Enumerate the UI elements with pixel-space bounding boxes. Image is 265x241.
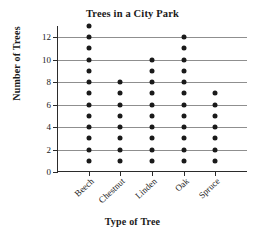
data-dot <box>86 147 91 152</box>
data-dot <box>181 80 186 85</box>
y-tick-mark <box>53 60 58 61</box>
data-dot <box>150 125 155 130</box>
data-dot <box>150 91 155 96</box>
y-tick-label: 12 <box>42 32 51 42</box>
data-dot <box>150 113 155 118</box>
data-dot <box>181 136 186 141</box>
data-dot <box>213 158 218 163</box>
y-tick-label: 6 <box>47 100 52 110</box>
y-tick-label: 4 <box>47 122 52 132</box>
y-tick-mark <box>53 105 58 106</box>
data-dot <box>86 80 91 85</box>
y-tick-mark <box>53 37 58 38</box>
data-dot <box>86 125 91 130</box>
data-dot <box>118 102 123 107</box>
data-dot <box>213 147 218 152</box>
data-dot <box>181 68 186 73</box>
data-dot <box>86 136 91 141</box>
data-dot <box>181 102 186 107</box>
data-dot <box>213 113 218 118</box>
data-dot <box>181 35 186 40</box>
data-dot <box>118 125 123 130</box>
y-tick-mark <box>53 172 58 173</box>
data-dot <box>86 158 91 163</box>
y-tick-label: 8 <box>47 77 52 87</box>
data-dot <box>150 57 155 62</box>
data-dot <box>181 91 186 96</box>
x-tick-mark <box>120 171 121 176</box>
x-tick-label-chestnut: Chestnut <box>97 176 127 205</box>
x-axis-title: Type of Tree <box>0 216 265 227</box>
data-dot <box>213 125 218 130</box>
data-dot <box>118 91 123 96</box>
data-dot <box>150 80 155 85</box>
y-tick-label: 10 <box>42 55 51 65</box>
chart-title: Trees in a City Park <box>0 8 265 19</box>
data-dot <box>86 68 91 73</box>
y-tick-mark <box>53 150 58 151</box>
y-tick-mark <box>53 127 58 128</box>
y-axis-title: Number of Trees <box>11 4 22 124</box>
data-dot <box>118 147 123 152</box>
data-dot <box>150 136 155 141</box>
data-dot <box>213 102 218 107</box>
data-dot <box>150 158 155 163</box>
data-dot <box>118 80 123 85</box>
data-dot <box>181 125 186 130</box>
data-dot <box>150 147 155 152</box>
x-tick-mark <box>215 171 216 176</box>
data-dot <box>181 158 186 163</box>
data-dot <box>118 136 123 141</box>
y-tick-mark <box>53 82 58 83</box>
x-tick-label-spruce: Spruce <box>197 176 222 200</box>
data-dot <box>150 68 155 73</box>
data-dot <box>181 113 186 118</box>
data-dot <box>86 113 91 118</box>
data-dot <box>213 91 218 96</box>
y-tick-label: 0 <box>47 167 52 177</box>
data-dot <box>213 136 218 141</box>
data-dot <box>181 57 186 62</box>
data-dot <box>86 102 91 107</box>
data-dot <box>86 35 91 40</box>
data-dot <box>86 57 91 62</box>
plot-area: 024681012 BeechChestnutLindenOakSpruce <box>57 26 247 172</box>
x-tick-label-linden: Linden <box>133 176 158 201</box>
data-dot <box>181 46 186 51</box>
data-dot <box>118 158 123 163</box>
data-dot <box>86 91 91 96</box>
data-dot <box>150 102 155 107</box>
data-dot <box>181 147 186 152</box>
x-tick-label-oak: Oak <box>173 176 191 194</box>
data-dot <box>86 24 91 29</box>
dot-plot-chart: Trees in a City Park Number of Trees 024… <box>0 0 265 241</box>
data-dot <box>86 46 91 51</box>
data-dot <box>118 113 123 118</box>
y-tick-label: 2 <box>47 145 52 155</box>
x-tick-label-beech: Beech <box>72 176 95 199</box>
